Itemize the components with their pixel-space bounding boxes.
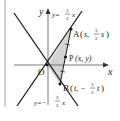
svg-text:2: 2 — [95, 36, 98, 41]
svg-text:3: 3 — [95, 28, 98, 33]
label-line-y-eq-3-2-x: y= 3 2 x — [51, 8, 76, 21]
point-B-dot — [58, 82, 61, 85]
svg-text:2: 2 — [66, 16, 69, 21]
svg-text:2: 2 — [56, 103, 59, 108]
svg-text:s: s — [101, 30, 104, 39]
svg-text:t, −: t, − — [74, 84, 86, 93]
svg-text:(: ( — [70, 83, 73, 93]
svg-text:3: 3 — [91, 82, 94, 87]
svg-text:y=−: y=− — [33, 99, 47, 107]
svg-text:3: 3 — [56, 95, 59, 100]
point-P-dot — [64, 55, 67, 58]
svg-text:t: t — [97, 84, 100, 93]
svg-text:P: P — [69, 54, 74, 63]
y-axis-arrow-icon — [46, 8, 51, 14]
y-axis-label: y — [38, 6, 44, 17]
svg-text:(: ( — [80, 29, 83, 39]
origin-label: O — [38, 67, 45, 77]
svg-text:): ) — [106, 29, 109, 39]
x-axis-label: x — [107, 66, 113, 77]
svg-text:s,: s, — [84, 30, 89, 39]
svg-text:): ) — [101, 83, 104, 93]
svg-text:y=: y= — [51, 11, 60, 19]
svg-text:B: B — [63, 83, 69, 93]
svg-text:x: x — [71, 11, 76, 19]
label-point-P: P (x, y) — [69, 54, 92, 63]
svg-text:A: A — [73, 29, 80, 39]
label-line-y-eq-neg-3-2-x: y=− 3 2 x — [33, 95, 66, 108]
origin-dot — [46, 64, 49, 67]
svg-text:2: 2 — [91, 90, 94, 95]
svg-text:x: x — [61, 99, 66, 107]
coordinate-diagram: y x O y= 3 2 x y=− 3 2 x A ( s, 3 2 s — [0, 0, 120, 121]
label-point-A: A ( s, 3 2 s ) — [73, 28, 109, 41]
svg-text:3: 3 — [66, 8, 69, 13]
svg-text:(x, y): (x, y) — [75, 54, 92, 63]
